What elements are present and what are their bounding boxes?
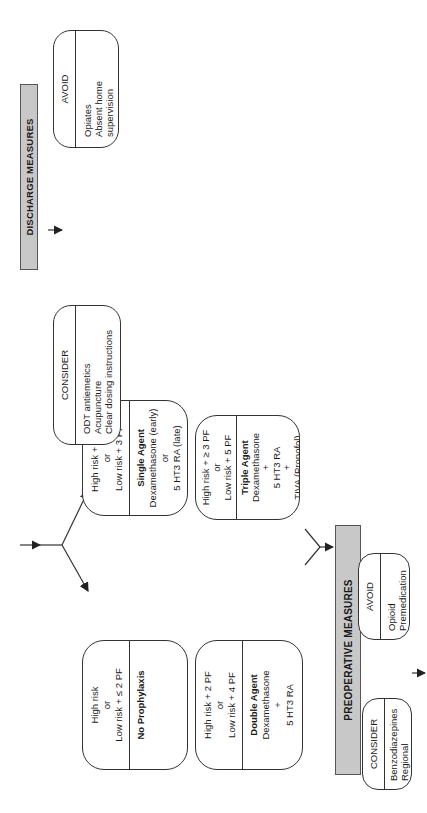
preop-consider-box: CONSIDER Benzodiazepines Regional Anesth… bbox=[362, 698, 412, 790]
consider-item: Acupuncture bbox=[92, 316, 103, 434]
avoid-item: Opiates bbox=[82, 41, 93, 137]
criteria-line: Low risk + ≤ 2 PF bbox=[113, 645, 125, 765]
preop-consider-header: CONSIDER bbox=[363, 699, 385, 789]
preop-avoid-box: AVOID Opioid Premedication bbox=[358, 553, 410, 640]
no-prophylaxis-criteria: High risk or Low risk + ≤ 2 PF bbox=[83, 641, 130, 769]
triple-agent-box: High risk + ≥ 3 PF or Low risk + 5 PF Tr… bbox=[195, 415, 300, 520]
consider-item: ODT antiemetics bbox=[81, 316, 92, 434]
drug-line: 5 HT3 RA (late) bbox=[171, 405, 183, 511]
discharge-measures-banner: DISCHARGE MEASURES bbox=[20, 84, 38, 270]
criteria-line: or bbox=[101, 645, 113, 765]
drug-line: or bbox=[159, 405, 171, 511]
drug-line: + bbox=[272, 645, 284, 765]
criteria-line: High risk + 2 PF bbox=[202, 645, 214, 765]
discharge-avoid-box: AVOID Opiates Absent home supervision bbox=[53, 30, 119, 148]
preoperative-measures-banner: PREOPERATIVE MEASURES bbox=[335, 525, 361, 775]
drug-line: 5 HT3 RA bbox=[284, 645, 296, 765]
consider-item: Clear dosing instructions bbox=[103, 316, 114, 434]
no-prophylaxis-title: No Prophylaxis bbox=[135, 645, 147, 765]
drug-line: + bbox=[261, 419, 272, 516]
discharge-consider-header: CONSIDER bbox=[54, 306, 76, 444]
no-prophylaxis-box: High risk or Low risk + ≤ 2 PF No Prophy… bbox=[82, 640, 188, 770]
avoid-item: Opioid Premedication bbox=[386, 562, 408, 631]
drug-line: TIVA (Propofol) bbox=[293, 419, 301, 516]
drug-line: Dexamethasone bbox=[260, 645, 272, 765]
triple-agent-title: Triple Agent bbox=[240, 419, 251, 516]
double-agent-title: Double Agent bbox=[248, 645, 260, 765]
double-agent-criteria: High risk + 2 PF or Low risk + 4 PF bbox=[196, 641, 243, 769]
criteria-line: or bbox=[214, 645, 226, 765]
double-agent-box: High risk + 2 PF or Low risk + 4 PF Doub… bbox=[195, 640, 303, 770]
criteria-line: High risk bbox=[89, 645, 101, 765]
consider-item: Benzodiazepines bbox=[388, 707, 399, 781]
ponv-prophylaxis-flowchart: High risk or Low risk + ≤ 2 PF No Prophy… bbox=[0, 0, 427, 813]
triple-agent-criteria: High risk + ≥ 3 PF or Low risk + 5 PF bbox=[196, 416, 237, 519]
drug-line: + bbox=[282, 419, 293, 516]
consider-item: Regional Anesthesia bbox=[399, 707, 412, 781]
avoid-item: Absent home supervision bbox=[93, 41, 115, 137]
drug-line: Dexamethasone (early) bbox=[147, 405, 159, 511]
discharge-consider-box: CONSIDER ODT antiemetics Acupuncture Cle… bbox=[53, 305, 121, 445]
discharge-avoid-header: AVOID bbox=[54, 31, 76, 147]
criteria-line: Low risk + 5 PF bbox=[222, 419, 233, 516]
criteria-line: Low risk + 4 PF bbox=[226, 645, 238, 765]
criteria-line: or bbox=[211, 419, 222, 516]
criteria-line: High risk + ≥ 3 PF bbox=[200, 419, 211, 516]
single-agent-title: Single Agent bbox=[135, 405, 147, 511]
preop-avoid-header: AVOID bbox=[359, 554, 381, 639]
